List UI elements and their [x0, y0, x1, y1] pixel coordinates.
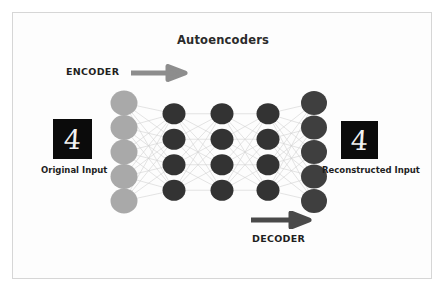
network-node-encoder-hidden-layer [163, 154, 186, 175]
network-node-decoder-hidden-layer [257, 103, 280, 124]
network-node-decoder-hidden-layer [257, 154, 280, 175]
decoder-label: DECODER [252, 233, 305, 244]
network-node-output-layer [301, 91, 327, 115]
network-nodes [111, 91, 328, 214]
encoder-label: ENCODER [66, 66, 119, 77]
network-node-output-layer [301, 116, 327, 140]
reconstructed-input-image: 4 [341, 121, 378, 159]
network-node-encoder-hidden-layer [163, 129, 186, 150]
network-node-bottleneck-layer [211, 154, 234, 175]
network-node-decoder-hidden-layer [257, 180, 280, 201]
network-node-bottleneck-layer [211, 103, 234, 124]
network-node-bottleneck-layer [211, 180, 234, 201]
digit-glyph: 4 [350, 127, 369, 154]
original-input-image: 4 [53, 119, 92, 159]
arrow-right-icon [130, 64, 188, 82]
network-node-encoder-hidden-layer [163, 180, 186, 201]
network-node-input-layer [111, 115, 138, 140]
network-node-input-layer [111, 140, 138, 165]
network-node-encoder-hidden-layer [163, 103, 186, 124]
network-node-output-layer [301, 140, 327, 164]
reconstructed-input-caption: Reconstructed Input [322, 165, 420, 175]
digit-glyph: 4 [63, 126, 82, 153]
network-node-input-layer [111, 91, 138, 116]
autoencoder-diagram: Autoencoders ENCODER DECODER 4 Original … [0, 0, 446, 293]
network-node-decoder-hidden-layer [257, 129, 280, 150]
network-node-bottleneck-layer [211, 129, 234, 150]
network-node-input-layer [111, 164, 138, 189]
arrow-right-icon [250, 211, 312, 229]
original-input-caption: Original Input [41, 165, 107, 175]
network-node-output-layer [301, 189, 327, 213]
network-node-input-layer [111, 189, 138, 214]
